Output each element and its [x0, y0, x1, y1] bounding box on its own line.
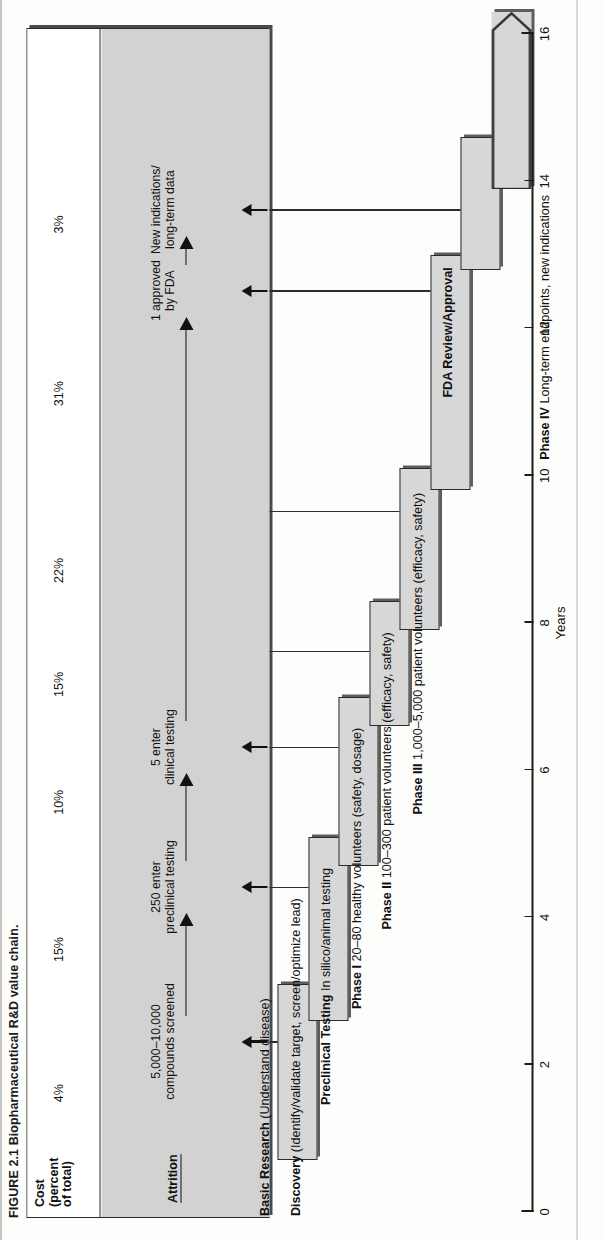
stage-label-bold: Phase II — [379, 882, 393, 930]
stage-label-bold: Phase IV — [537, 407, 551, 460]
cost-header-line-3: of total) — [60, 1103, 74, 1207]
rotated-figure-canvas: FIGURE 2.1 Biopharmaceutical R&D value c… — [0, 0, 603, 1240]
axis-tick-2 — [524, 1063, 533, 1065]
cost-value-0: 4% — [51, 1084, 65, 1102]
cost-value-4: 22% — [51, 558, 65, 583]
header-panel: Cost (percent of total) 4%15%10%15%22%31… — [26, 28, 269, 1218]
stage-label-detail: (Identify/validate target, screen/optimi… — [288, 898, 302, 1156]
axis-tick-0 — [524, 1210, 533, 1212]
cost-value-2: 10% — [51, 790, 65, 815]
attrition-note-2: 5 enter clinical testing — [149, 709, 176, 785]
axis-tick-12 — [524, 327, 533, 329]
figure-caption: FIGURE 2.1 Biopharmaceutical R&D value c… — [6, 518, 20, 1218]
attrition-up-arrow-3 — [241, 285, 267, 297]
attrition-connector-0 — [185, 926, 186, 1016]
stage-label-preclinical-testing: Preclinical Testing In silico/animal tes… — [318, 868, 332, 1105]
stage-label-detail: Long-term endpoints, new indications — [537, 195, 551, 407]
stage-label-phase-i: Phase I 20–80 healthy volunteers (safety… — [349, 728, 363, 1009]
stage-label-phase-iii: Phase III 1,000–5,000 patient volunteers… — [410, 493, 424, 815]
stage-label-bold: Phase III — [410, 763, 424, 814]
attrition-connector-3 — [185, 249, 186, 265]
axis-tick-10 — [524, 474, 533, 476]
axis-tick-8 — [524, 621, 533, 623]
stage-label-detail: 100–300 patient volunteers (efficacy, sa… — [379, 632, 393, 881]
attrition-header: Attrition — [165, 1154, 181, 1203]
attrition-up-arrow-1 — [241, 881, 267, 893]
page-rule-bottom — [576, 0, 577, 1240]
attrition-arrowhead-1 — [179, 773, 193, 786]
attrition-connector-1 — [185, 786, 186, 861]
stage-label-fda-review-approval: FDA Review/Approval — [440, 267, 454, 397]
attrition-connector-2 — [185, 330, 186, 721]
axis-tick-4 — [524, 916, 533, 918]
axis-tick-label-12: 12 — [536, 321, 551, 335]
stage-label-basic-research: Basic Research (Understand disease) — [257, 998, 271, 1216]
stage-label-bold: Phase I — [349, 965, 363, 1009]
axis-tick-label-14: 14 — [536, 174, 551, 188]
attrition-row: Attrition 5,000–10,000 compounds screene… — [101, 29, 269, 1217]
axis-tick-label-8: 8 — [536, 619, 551, 626]
axis-tick-label-2: 2 — [536, 1061, 551, 1068]
axis-tick-label-10: 10 — [536, 469, 551, 483]
attrition-up-arrow-2 — [241, 741, 267, 753]
attrition-note-3: 1 approved by FDA — [149, 260, 176, 321]
stage-label-bold: Basic Research — [257, 1122, 271, 1216]
axis-tick-6 — [524, 769, 533, 771]
stage-label-detail: 20–80 healthy volunteers (safety, dosage… — [349, 728, 363, 965]
axis-tick-label-6: 6 — [536, 767, 551, 774]
stage-label-bold: Discovery — [288, 1156, 302, 1216]
attrition-note-0: 5,000–10,000 compounds screened — [149, 983, 176, 1100]
axis-tick-label-4: 4 — [536, 914, 551, 921]
attrition-up-arrow-4 — [241, 204, 267, 216]
axis-tick-label-16: 16 — [536, 27, 551, 41]
attrition-arrowhead-0 — [179, 913, 193, 926]
cost-header-line-1: Cost — [33, 1103, 47, 1207]
cost-header-line-2: (percent — [47, 1103, 61, 1207]
stage-label-bold: Preclinical Testing — [318, 995, 332, 1105]
cost-value-3: 15% — [51, 672, 65, 697]
stage-label-detail: In silico/animal testing — [318, 868, 332, 995]
cost-row: Cost (percent of total) 4%15%10%15%22%31… — [27, 29, 100, 1217]
bar-phase-iv — [491, 12, 531, 189]
years-axis — [531, 34, 533, 1212]
axis-tick-label-0: 0 — [536, 1208, 551, 1215]
axis-tick-14 — [524, 180, 533, 182]
cost-value-1: 15% — [51, 937, 65, 962]
attrition-note-4: New indications/ long-term data — [149, 165, 176, 254]
cost-value-5: 31% — [51, 381, 65, 406]
stage-label-detail: (Understand disease) — [257, 998, 271, 1122]
attrition-arrowhead-3 — [179, 236, 193, 249]
stage-label-discovery: Discovery (Identify/validate target, scr… — [288, 898, 302, 1216]
attrition-note-1: 250 enter preclinical testing — [149, 840, 176, 933]
cost-header: Cost (percent of total) — [33, 1103, 74, 1207]
stage-label-detail: 1,000–5,000 patient volunteers (efficacy… — [410, 493, 424, 763]
timeline-chart: Basic Research (Understand disease)Disco… — [269, 28, 569, 1218]
cost-value-6: 3% — [51, 215, 65, 233]
figure-page: FIGURE 2.1 Biopharmaceutical R&D value c… — [0, 0, 603, 1240]
axis-title: Years — [552, 607, 567, 640]
axis-tick-16 — [524, 32, 533, 34]
page-rule-top — [0, 0, 1, 1240]
attrition-arrowhead-2 — [179, 317, 193, 330]
stage-label-bold: FDA Review/Approval — [440, 267, 454, 397]
stage-label-phase-ii: Phase II 100–300 patient volunteers (eff… — [379, 632, 393, 929]
